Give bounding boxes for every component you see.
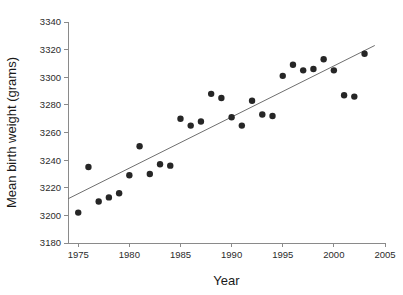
y-tick-label: 3200: [40, 210, 61, 221]
data-point: [341, 92, 347, 98]
regression-line: [68, 45, 375, 198]
data-point: [75, 209, 81, 215]
data-point: [259, 111, 265, 117]
data-point: [331, 67, 337, 73]
data-point: [85, 164, 91, 170]
data-point: [157, 161, 163, 167]
data-point: [269, 113, 275, 119]
y-tick-label: 3340: [40, 16, 61, 27]
data-point: [320, 56, 326, 62]
data-point: [208, 91, 214, 97]
x-tick-label: 1995: [272, 249, 293, 260]
y-tick-label: 3180: [40, 237, 61, 248]
x-tick-label: 1990: [221, 249, 242, 260]
y-tick-label: 3280: [40, 99, 61, 110]
data-point: [116, 190, 122, 196]
data-point: [147, 171, 153, 177]
data-point: [198, 118, 204, 124]
chart-canvas: 318032003220324032603280330033203340 197…: [0, 0, 403, 295]
data-point: [290, 62, 296, 68]
data-point: [188, 122, 194, 128]
data-point: [177, 115, 183, 121]
data-point: [249, 98, 255, 104]
x-axis-title: Year: [213, 273, 240, 288]
data-point: [228, 114, 234, 120]
x-tick-label: 1985: [170, 249, 191, 260]
data-point: [351, 93, 357, 99]
data-point: [310, 66, 316, 72]
y-tick-label: 3300: [40, 72, 61, 83]
x-tick-label: 1975: [68, 249, 89, 260]
x-axis: 1975198019851990199520002005: [68, 243, 396, 260]
data-point: [218, 95, 224, 101]
y-tick-label: 3260: [40, 127, 61, 138]
data-point: [280, 73, 286, 79]
data-point: [361, 51, 367, 57]
x-tick-label: 2000: [323, 249, 344, 260]
data-point: [300, 67, 306, 73]
trend-line: [68, 45, 375, 198]
data-point: [95, 198, 101, 204]
data-point: [239, 122, 245, 128]
x-tick-label: 2005: [374, 249, 395, 260]
y-axis: 318032003220324032603280330033203340: [40, 16, 68, 248]
data-points: [75, 51, 368, 216]
y-tick-label: 3320: [40, 44, 61, 55]
data-point: [136, 143, 142, 149]
data-point: [106, 194, 112, 200]
data-point: [167, 162, 173, 168]
y-axis-title: Mean birth weight (grams): [4, 57, 19, 208]
y-tick-label: 3220: [40, 182, 61, 193]
data-point: [126, 172, 132, 178]
y-tick-label: 3240: [40, 155, 61, 166]
x-tick-label: 1980: [119, 249, 140, 260]
scatter-chart: 318032003220324032603280330033203340 197…: [0, 0, 403, 295]
